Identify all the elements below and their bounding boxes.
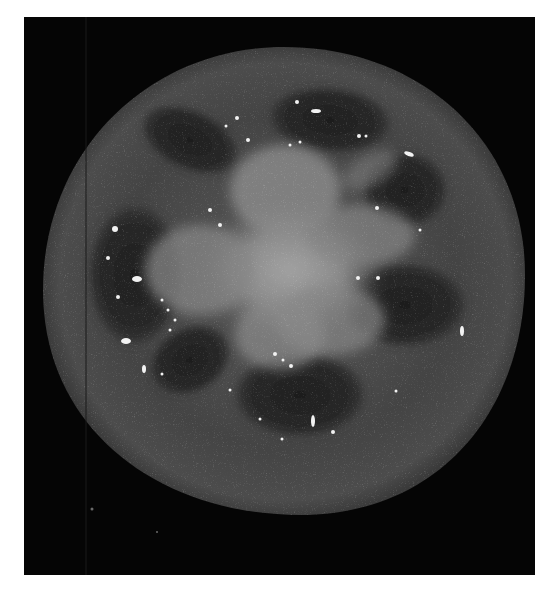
tomato-slice xyxy=(40,44,530,519)
dust-speck xyxy=(156,531,158,533)
tomato-photo xyxy=(0,0,558,594)
dust-speck xyxy=(91,508,94,511)
